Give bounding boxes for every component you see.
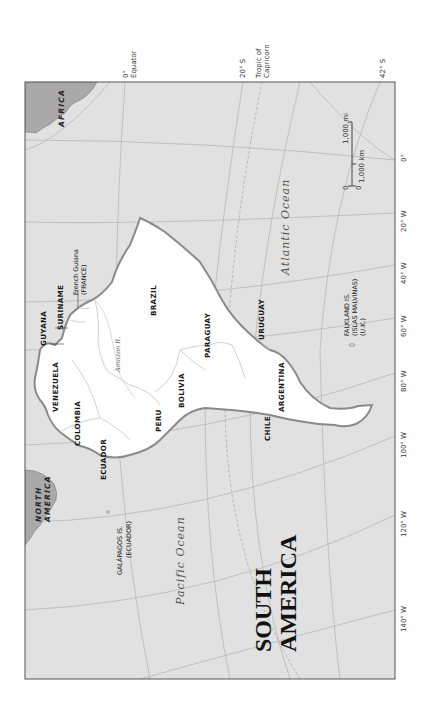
north-america-label-line1: NORTH xyxy=(34,487,43,522)
scale-mi-zero: 0 xyxy=(342,186,350,190)
latitude-label-equator: Equator xyxy=(130,50,138,78)
scale-mi-label: 1,000 mi xyxy=(342,113,350,144)
french-guiana-label-line1: French Guiana xyxy=(72,249,80,295)
latitude-label-capricorn: Capricorn xyxy=(263,44,271,78)
country-label-paraguay: PARAGUAY xyxy=(203,312,212,358)
longitude-label-60w: 60° W xyxy=(400,315,408,337)
amazon-river-label: Amazon R. xyxy=(114,337,122,373)
country-label-peru: PERU xyxy=(154,409,163,432)
map-page: AFRICA NORTH AMERICA Atlantic Ocean Paci… xyxy=(0,0,429,712)
longitude-label-40w: 40° W xyxy=(400,262,408,284)
galapagos-islands xyxy=(107,511,110,514)
map-title-line1: SOUTH xyxy=(250,568,276,652)
french-guiana-label-line2: (FRANCE) xyxy=(80,265,88,296)
longitude-label-80w: 80° W xyxy=(400,370,408,392)
falklands-label-line1: FALKLAND IS. xyxy=(343,293,351,336)
africa-label: AFRICA xyxy=(57,89,66,128)
latitude-label-tropic: Tropic of xyxy=(255,48,263,79)
country-label-bolivia: BOLIVIA xyxy=(177,373,186,408)
north-america-label-line2: AMERICA xyxy=(43,475,52,523)
country-label-colombia: COLOMBIA xyxy=(73,401,82,446)
longitude-label-0: 0° xyxy=(400,154,408,162)
longitude-label-100w: 100° W xyxy=(400,432,408,458)
longitude-label-140w: 140° W xyxy=(400,606,408,632)
falklands-label-line3: (U.K.) xyxy=(359,318,367,336)
country-label-brazil: BRAZIL xyxy=(149,285,158,316)
falkland-islands xyxy=(349,344,355,347)
scale-km-label: 1,000 km xyxy=(358,150,366,183)
country-label-suriname: SURINAME xyxy=(56,285,65,330)
country-label-argentina: ARGENTINA xyxy=(277,362,286,412)
country-label-uruguay: URUGUAY xyxy=(257,299,266,340)
atlantic-ocean-label: Atlantic Ocean xyxy=(279,179,292,276)
latitude-label-0: 0° xyxy=(122,70,130,78)
map-title-line2: AMERICA xyxy=(275,534,301,652)
country-label-ecuador: ECUADOR xyxy=(99,439,108,480)
latitude-label-20s: 20° S xyxy=(239,58,247,78)
falklands-label-line2: (ISLAS MALVINAS) xyxy=(351,279,359,336)
country-label-chile: CHILE xyxy=(263,416,272,441)
longitude-label-120w: 120° W xyxy=(400,511,408,537)
latitude-label-42s: 42° S xyxy=(379,58,387,78)
country-label-guyana: GUYANA xyxy=(39,311,48,346)
south-america-map: AFRICA NORTH AMERICA Atlantic Ocean Paci… xyxy=(0,0,429,712)
galapagos-label-line1: GALÁPAGOS IS. xyxy=(116,526,124,575)
galapagos-label-line2: (ECUADOR) xyxy=(125,521,133,558)
scale-km-zero: 0 xyxy=(355,186,363,190)
country-label-venezuela: VENEZUELA xyxy=(51,362,60,412)
longitude-label-20w: 20° W xyxy=(400,210,408,232)
pacific-ocean-label: Pacific Ocean xyxy=(174,516,187,606)
